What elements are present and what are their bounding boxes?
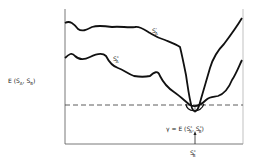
y-axis-label: E (SA, SB)	[8, 77, 35, 86]
curve-s-star-a	[65, 54, 242, 106]
energy-landscape-diagram: E (SA, SB) S'A S*A γ = E (S*A, S*B) S*B	[0, 0, 258, 168]
x-marker-label: S*B	[190, 149, 196, 159]
gamma-label: γ = E (S*A, S*B)	[166, 125, 204, 135]
curve-lower-label: S*A	[113, 55, 119, 65]
